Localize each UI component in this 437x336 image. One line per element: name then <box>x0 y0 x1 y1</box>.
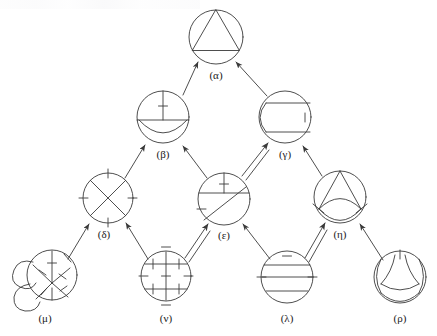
node-label-epsilon: (ε) <box>218 229 230 242</box>
node-rho[interactable] <box>374 250 426 303</box>
node-mu-branch-d <box>52 283 68 297</box>
node-alpha-circle <box>189 10 243 64</box>
edge-lambda-epsilon <box>243 224 270 259</box>
node-label-alpha: (α) <box>209 69 222 82</box>
node-rho-arc-bottom <box>381 293 419 302</box>
node-alpha[interactable] <box>189 10 243 64</box>
node-gamma[interactable] <box>259 91 311 143</box>
node-mu-tick-e <box>60 286 67 291</box>
node-eta[interactable] <box>313 171 367 223</box>
edge-lambda-eta <box>305 223 327 262</box>
node-label-lambda: (λ) <box>281 312 294 325</box>
node-label-beta: (β) <box>157 148 170 161</box>
edge-epsilon-gamma <box>242 143 269 180</box>
node-lambda[interactable] <box>257 251 317 303</box>
node-label-eta: (η) <box>333 228 346 241</box>
node-beta-lower-arc <box>139 120 187 133</box>
edge-nu-delta <box>126 223 148 259</box>
node-nu[interactable] <box>139 247 193 305</box>
node-mu[interactable] <box>12 250 77 311</box>
node-eta-lens-upper-arc <box>319 199 361 210</box>
node-mu-blob-lower <box>14 284 40 311</box>
node-delta[interactable] <box>79 169 137 227</box>
node-eta-circle <box>314 171 366 223</box>
node-beta[interactable] <box>137 91 189 143</box>
node-label-nu: (ν) <box>160 312 173 325</box>
node-epsilon[interactable] <box>197 173 250 225</box>
edge-delta-beta <box>125 145 145 178</box>
node-label-gamma: (γ) <box>279 148 292 161</box>
edge-mu-delta <box>68 224 89 259</box>
node-gamma-circle <box>259 91 311 143</box>
node-eta-apex-line-right <box>340 171 361 209</box>
node-label-mu: (μ) <box>38 312 52 325</box>
edge-nu-epsilon <box>185 224 210 262</box>
edge-gamma-alpha <box>236 62 267 96</box>
node-rho-inner-right <box>405 255 419 284</box>
diagram-canvas: (α) (β) (γ) (δ) (ε) (η) (μ) (ν) (λ) (ρ) <box>0 0 437 336</box>
edge-epsilon-beta <box>183 146 207 178</box>
edge-rho-eta <box>360 224 383 260</box>
edge-beta-alpha <box>183 62 198 95</box>
node-eta-apex-line-left <box>319 171 340 209</box>
node-rho-inner-bottom <box>381 284 419 290</box>
lattice-diagram: (α) (β) (γ) (δ) (ε) (η) (μ) (ν) (λ) (ρ) <box>0 0 437 336</box>
nodes-group <box>12 10 426 311</box>
edge-eta-gamma <box>303 146 322 176</box>
node-mu-tick-c <box>41 288 47 295</box>
node-mu-blob-upper <box>12 261 36 289</box>
node-label-rho: (ρ) <box>394 312 407 325</box>
node-label-delta: (δ) <box>98 228 111 241</box>
labels-group: (α) (β) (γ) (δ) (ε) (η) (μ) (ν) (λ) (ρ) <box>38 69 406 325</box>
node-epsilon-diagonal-chord <box>204 187 246 220</box>
node-mu-branch-a <box>33 265 52 283</box>
